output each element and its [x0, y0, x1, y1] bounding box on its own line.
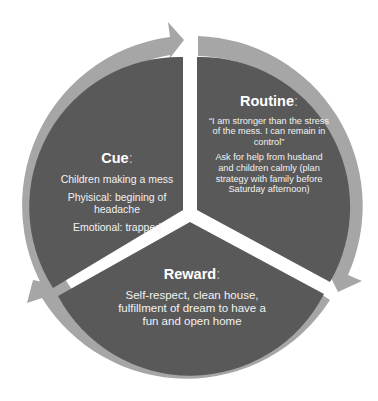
reward-title-text: Reward: [164, 266, 216, 282]
cue-label: Cue: Children making a mess Phyisical: b…: [55, 150, 179, 239]
cue-title-colon: :: [129, 150, 133, 166]
cue-title-text: Cue: [101, 150, 128, 166]
reward-label: Reward: Self-respect, clean house, fulfi…: [112, 266, 272, 328]
cue-title: Cue:: [55, 150, 179, 167]
routine-title-colon: :: [294, 93, 298, 109]
reward-line-1: Self-respect, clean house, fulfillment o…: [112, 289, 272, 329]
cue-line-1: Children making a mess: [55, 173, 179, 185]
reward-title-colon: :: [216, 266, 220, 282]
cue-line-2: Phyisical: begining of headache: [55, 191, 179, 215]
cue-line-3: Emotional: trapped: [55, 221, 179, 233]
routine-label: Routine: “I am stronger than the stress …: [208, 93, 330, 200]
routine-line-1: “I am stronger than the stress of the me…: [208, 116, 330, 148]
reward-title: Reward:: [112, 266, 272, 283]
routine-line-2: Ask for help from husband and children c…: [208, 152, 330, 194]
routine-title-text: Routine: [240, 93, 294, 109]
routine-title: Routine:: [208, 93, 330, 110]
